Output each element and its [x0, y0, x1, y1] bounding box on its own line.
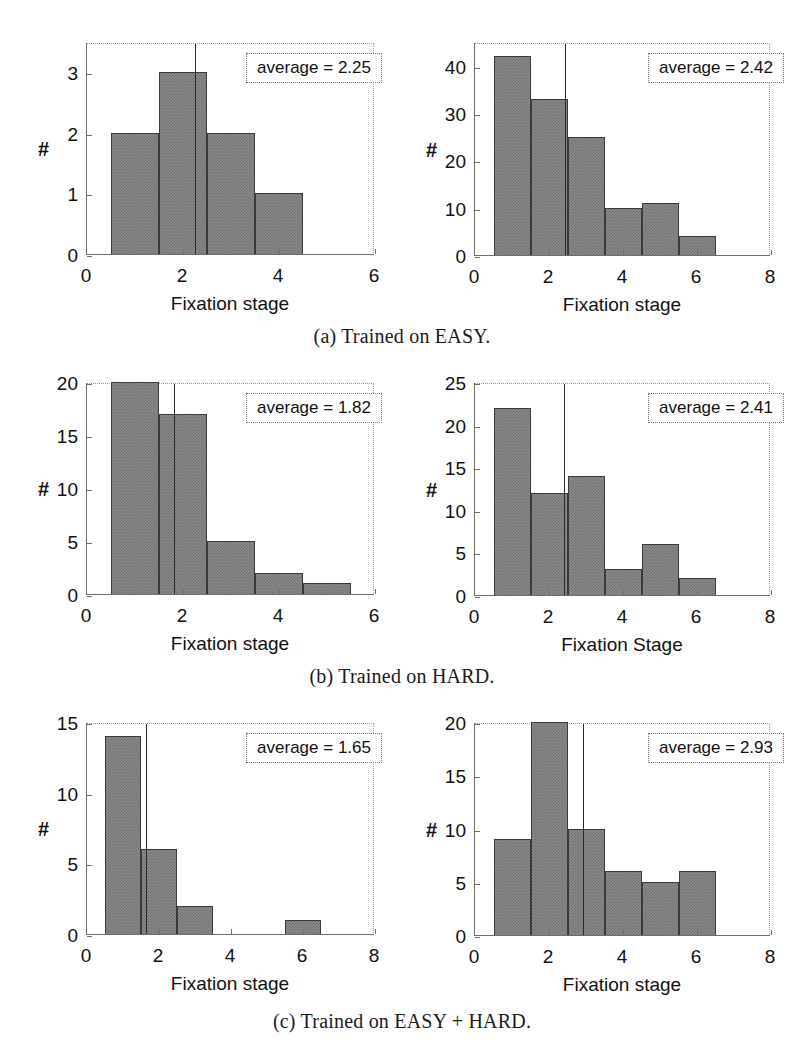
x-axis-label: Fixation stage: [171, 633, 289, 655]
x-axis-label: Fixation stage: [563, 974, 681, 996]
y-tick: [475, 554, 480, 555]
x-tick: [549, 250, 550, 255]
histogram-bar: [494, 408, 531, 595]
histogram-bar: [531, 722, 568, 935]
histogram-bar: [531, 99, 568, 255]
x-tick-label: 0: [469, 947, 480, 966]
y-tick: [475, 427, 480, 428]
average-annotation-box: average = 2.42: [648, 53, 784, 83]
x-axis-spine: [474, 595, 770, 596]
x-tick: [183, 589, 184, 594]
x-tick-label: 6: [369, 606, 380, 625]
x-tick: [303, 929, 304, 934]
x-tick: [771, 250, 772, 255]
x-tick: [375, 929, 376, 934]
x-tick: [183, 249, 184, 254]
x-tick-label: 8: [369, 946, 380, 965]
x-tick-label: 4: [273, 266, 284, 285]
x-tick-label: 8: [765, 267, 776, 286]
x-tick-label: 0: [469, 607, 480, 626]
average-annotation-box: average = 2.25: [246, 53, 382, 83]
histogram-bar: [159, 72, 207, 254]
average-marker-line: [174, 384, 175, 594]
x-tick: [771, 930, 772, 935]
y-tick: [475, 777, 480, 778]
histogram-bar: [494, 56, 531, 255]
histogram-bar: [679, 871, 716, 935]
panel-c: 05101502468Fixation stage#average = 1.65…: [0, 680, 804, 980]
histogram-bar: [111, 133, 159, 254]
x-axis-spine: [86, 594, 374, 595]
y-tick: [475, 162, 480, 163]
average-marker-line: [583, 724, 584, 935]
panel-b: 051015200246Fixation stage#average = 1.8…: [0, 340, 804, 640]
histogram-bar: [111, 382, 159, 594]
x-axis-label: Fixation stage: [171, 973, 289, 995]
y-tick-label: 0: [32, 246, 78, 265]
y-tick: [475, 831, 480, 832]
x-tick-label: 2: [543, 267, 554, 286]
y-tick-label: 20: [420, 714, 466, 733]
y-tick: [475, 512, 480, 513]
average-marker-line: [564, 384, 565, 595]
x-axis-spine: [474, 935, 770, 936]
y-tick-label: 15: [32, 427, 78, 446]
histogram-bar: [605, 871, 642, 935]
x-tick-label: 2: [177, 266, 188, 285]
x-axis-label: Fixation Stage: [561, 634, 682, 656]
y-tick-label: 25: [420, 374, 466, 393]
histogram-bar: [159, 414, 207, 594]
x-axis-spine: [86, 254, 374, 255]
average-annotation-box: average = 2.41: [648, 393, 784, 423]
average-annotation-box: average = 1.82: [246, 393, 382, 423]
x-axis-label: Fixation stage: [563, 294, 681, 316]
y-tick-label: 20: [32, 374, 78, 393]
y-tick-label: 5: [420, 873, 466, 892]
y-tick: [87, 543, 92, 544]
histogram-bar: [177, 906, 213, 934]
y-tick-label: 30: [420, 105, 466, 124]
x-tick-label: 6: [691, 947, 702, 966]
x-axis-spine: [474, 255, 770, 256]
y-tick: [87, 135, 92, 136]
y-tick: [87, 865, 92, 866]
y-tick-label: 0: [420, 247, 466, 266]
y-tick-label: 10: [420, 501, 466, 520]
x-tick: [549, 590, 550, 595]
y-tick: [87, 795, 92, 796]
y-tick: [475, 115, 480, 116]
x-tick-label: 4: [225, 946, 236, 965]
y-tick: [475, 384, 480, 385]
y-tick: [475, 210, 480, 211]
y-tick-label: 3: [32, 64, 78, 83]
y-axis-label: #: [426, 138, 437, 161]
y-tick-label: 0: [420, 927, 466, 946]
histogram-bar: [568, 829, 605, 936]
y-tick: [87, 384, 92, 385]
x-tick-label: 2: [153, 946, 164, 965]
histogram-bar: [642, 544, 679, 595]
x-tick-label: 0: [81, 606, 92, 625]
y-tick-label: 0: [32, 586, 78, 605]
y-tick: [475, 937, 480, 938]
x-tick-label: 0: [81, 946, 92, 965]
average-marker-line: [565, 44, 566, 255]
x-tick: [375, 249, 376, 254]
y-tick-label: 5: [32, 533, 78, 552]
y-tick-label: 15: [420, 767, 466, 786]
histogram-bar: [568, 476, 605, 595]
y-tick-label: 15: [32, 714, 78, 733]
y-tick: [87, 490, 92, 491]
y-tick-label: 20: [420, 416, 466, 435]
average-marker-line: [195, 44, 196, 254]
y-tick-label: 10: [32, 784, 78, 803]
x-tick: [375, 589, 376, 594]
panel-a: 01230246Fixation stage#average = 2.25 01…: [0, 0, 804, 300]
x-tick-label: 6: [369, 266, 380, 285]
x-tick: [623, 250, 624, 255]
y-tick-label: 10: [420, 199, 466, 218]
y-tick: [475, 257, 480, 258]
x-tick: [279, 589, 280, 594]
chart-easy-trained-hard-test: 01020304002468Fixation stage#average = 2…: [402, 0, 804, 300]
x-tick-label: 0: [469, 267, 480, 286]
